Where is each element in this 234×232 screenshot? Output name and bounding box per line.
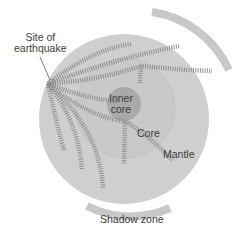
earthquake-label: Site of earthquake	[14, 32, 67, 54]
inner-core-label-line2: core	[109, 104, 133, 115]
mantle-label: Mantle	[163, 149, 195, 160]
earthquake-label-line2: earthquake	[14, 43, 67, 54]
inner-core-label: Inner core	[109, 93, 133, 115]
earthquake-pointer-line	[40, 57, 50, 80]
shadow-zone-label: Shadow zone	[100, 214, 164, 225]
core-label: Core	[137, 128, 160, 139]
